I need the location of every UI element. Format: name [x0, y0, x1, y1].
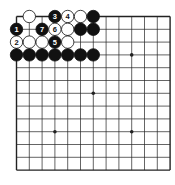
star-point	[130, 53, 134, 57]
white-stone: 2	[10, 36, 22, 48]
move-number-label: 7	[40, 25, 44, 34]
white-stone	[61, 36, 73, 48]
white-stone	[74, 10, 86, 22]
move-number-label: 6	[53, 25, 57, 34]
black-stone	[23, 49, 35, 61]
move-number-label: 2	[14, 38, 18, 47]
go-board[interactable]: 3417625	[0, 0, 175, 185]
black-stone	[87, 10, 99, 22]
star-point	[53, 130, 57, 134]
move-number-label: 5	[53, 38, 57, 47]
white-stone	[36, 36, 48, 48]
black-stone	[87, 49, 99, 61]
white-stone	[23, 36, 35, 48]
white-stone	[61, 23, 73, 35]
white-stone: 4	[61, 10, 73, 22]
stones-layer: 3417625	[10, 10, 99, 61]
black-stone: 5	[49, 36, 61, 48]
white-stone	[23, 10, 35, 22]
black-stone	[74, 49, 86, 61]
black-stone	[10, 49, 22, 61]
move-number-label: 1	[14, 25, 18, 34]
move-number-label: 3	[53, 12, 57, 21]
black-stone	[74, 23, 86, 35]
white-stone: 6	[49, 23, 61, 35]
black-stone: 3	[49, 10, 61, 22]
black-stone	[87, 23, 99, 35]
star-point	[92, 92, 96, 96]
black-stone: 1	[10, 23, 22, 35]
black-stone	[36, 49, 48, 61]
black-stone	[61, 49, 73, 61]
star-point	[130, 130, 134, 134]
black-stone: 7	[36, 23, 48, 35]
black-stone	[49, 49, 61, 61]
